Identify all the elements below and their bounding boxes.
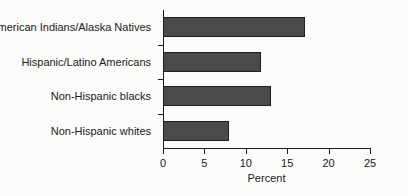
x-axis-tick-label: 25 xyxy=(364,157,376,169)
x-axis-tick xyxy=(370,148,371,154)
bar-non-hispanic-whites xyxy=(163,121,229,141)
x-axis-tick xyxy=(163,148,164,154)
category-label-row: Hispanic/Latino Americans xyxy=(0,45,157,80)
bar-chart-figure: American Indians/Alaska Natives Hispanic… xyxy=(0,0,408,196)
bar-slot xyxy=(163,45,370,80)
x-axis-tick xyxy=(287,148,288,154)
bar-slot xyxy=(163,114,370,149)
x-axis-tick-label: 0 xyxy=(160,157,166,169)
category-label-row: American Indians/Alaska Natives xyxy=(0,10,157,45)
plot-area: 0510152025 xyxy=(163,10,370,148)
bar-slot xyxy=(163,79,370,114)
bar-american-indians-alaska-natives xyxy=(163,17,305,37)
category-label: American Indians/Alaska Natives xyxy=(0,21,151,33)
x-axis-tick xyxy=(329,148,330,154)
x-axis-title: Percent xyxy=(163,172,370,184)
x-axis-tick xyxy=(246,148,247,154)
x-axis-tick-label: 15 xyxy=(281,157,293,169)
x-axis-tick-label: 5 xyxy=(201,157,207,169)
category-label-row: Non-Hispanic blacks xyxy=(0,79,157,114)
category-axis-labels: American Indians/Alaska Natives Hispanic… xyxy=(0,10,157,148)
category-label: Hispanic/Latino Americans xyxy=(21,56,151,68)
x-axis-line xyxy=(163,148,370,149)
bar-non-hispanic-blacks xyxy=(163,86,271,106)
bar-slot xyxy=(163,10,370,45)
x-axis-tick xyxy=(204,148,205,154)
x-axis-tick-label: 10 xyxy=(240,157,252,169)
bar-hispanic-latino-americans xyxy=(163,52,261,72)
category-label: Non-Hispanic blacks xyxy=(51,90,151,102)
category-label-row: Non-Hispanic whites xyxy=(0,114,157,149)
category-label: Non-Hispanic whites xyxy=(51,125,151,137)
x-axis-tick-label: 20 xyxy=(322,157,334,169)
